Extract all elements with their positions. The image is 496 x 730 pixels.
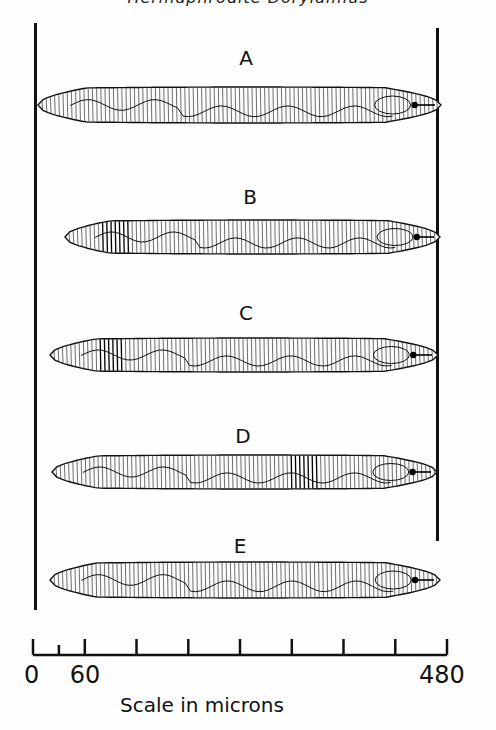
specimen-label-a: A bbox=[239, 46, 253, 70]
scale-label-480: 480 bbox=[419, 661, 465, 689]
scale-caption: Scale in microns bbox=[120, 693, 284, 717]
nematode-figure bbox=[0, 0, 496, 730]
specimen-label-b: B bbox=[243, 185, 257, 209]
specimen-label-d: D bbox=[235, 424, 250, 448]
scale-label-60: 60 bbox=[70, 661, 101, 689]
specimen-label-c: C bbox=[239, 301, 253, 325]
specimen-label-e: E bbox=[234, 534, 247, 558]
scale-label-0: 0 bbox=[24, 661, 39, 689]
